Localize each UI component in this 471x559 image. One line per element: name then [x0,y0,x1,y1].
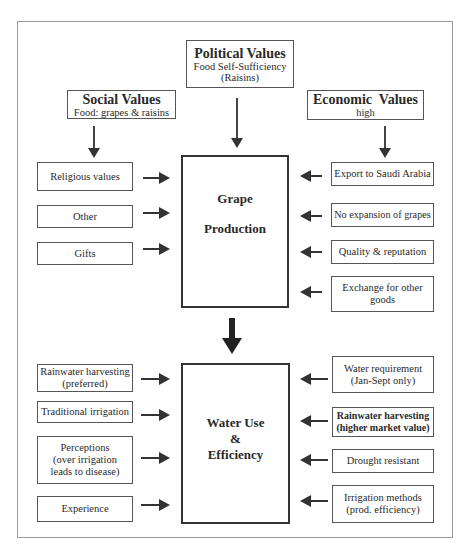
water-requirement-line1: Water requirement [344,363,422,375]
social-values-line1: Food: grapes & raisins [74,107,169,118]
social-values-box: Social Values Food: grapes & raisins [67,90,176,119]
rainwater-harvesting-preferred-box: Rainwater harvesting (preferred) [37,364,133,392]
experience-label: Experience [61,503,108,515]
drought-resistant-box: Drought resistant [332,449,434,473]
other-box: Other [37,205,133,228]
traditional-irrigation-label: Traditional irrigation [41,406,129,418]
no-expansion-box: No expansion of grapes [331,203,434,227]
political-values-line1: Food Self-Sufficiency [194,61,287,72]
water-requirement-arrow-icon [302,378,328,380]
social-values-title: Social Values [82,92,160,107]
gifts-label: Gifts [75,248,96,260]
religious-values-label: Religious values [50,171,120,183]
big-down-arrow-shaft [229,318,235,340]
economic-values-title: Economic Values [313,92,418,107]
economic-values-box: Economic Values high [307,90,424,120]
perceptions-line3: leads to disease) [51,466,120,478]
irrigation-methods-arrow-icon [302,500,328,502]
water-use-line3: Efficiency [208,447,264,463]
traditional-irrigation-arrow-icon [141,414,168,416]
other-arrow-icon [143,212,168,214]
big-down-arrow-head-icon [222,338,242,354]
grape-production-line2: Production [204,221,266,237]
grape-production-box: Grape Production [181,155,289,308]
water-requirement-line2: (Jan-Sept only) [351,375,415,387]
political-values-title: Political Values [194,46,285,61]
perceptions-arrow-icon [141,457,168,459]
drought-resistant-arrow-icon [302,459,328,461]
rainwater-preferred-line1: Rainwater harvesting [40,366,130,378]
perceptions-line2: (over irrigation [53,454,117,466]
political-arrow-head-icon [231,138,243,148]
rainwater-preferred-arrow-icon [141,378,168,380]
political-values-box: Political Values Food Self-Sufficiency (… [186,40,294,88]
perceptions-box: Perceptions (over irrigation leads to di… [37,436,133,484]
irrigation-methods-box: Irrigation methods (prod. efficiency) [332,485,434,523]
experience-box: Experience [37,496,133,522]
political-arrow-shaft [236,98,238,142]
perceptions-line1: Perceptions [61,442,110,454]
economic-values-line1: high [356,107,375,118]
rainwater-harvesting-market-box: Rainwater harvesting (higher market valu… [332,407,434,437]
export-saudi-arabia-label: Export to Saudi Arabia [334,168,431,180]
gifts-arrow-icon [143,248,168,250]
exchange-goods-line1: Exchange for other [342,282,422,294]
exchange-goods-line2: goods [370,294,395,306]
quality-reputation-box: Quality & reputation [331,240,434,264]
rainwater-market-arrow-icon [302,420,328,422]
rainwater-preferred-line2: (preferred) [62,378,107,390]
gifts-box: Gifts [37,242,133,265]
experience-arrow-icon [141,504,168,506]
traditional-irrigation-box: Traditional irrigation [37,401,133,423]
irrigation-methods-line1: Irrigation methods [344,492,422,504]
religious-values-box: Religious values [37,162,133,191]
social-arrow-head-icon [88,148,100,158]
religious-values-arrow-icon [143,177,168,179]
economic-arrow-head-icon [379,148,391,158]
exchange-goods-box: Exchange for other goods [331,276,434,312]
other-label: Other [73,211,97,223]
export-arrow-icon [302,175,322,177]
water-use-efficiency-box: Water Use & Efficiency [181,363,290,524]
rainwater-market-line2: (higher market value) [336,422,429,434]
no-expansion-label: No expansion of grapes [334,209,430,221]
water-use-line2: & [230,431,241,447]
quality-reputation-label: Quality & reputation [339,246,426,258]
water-requirement-box: Water requirement (Jan-Sept only) [332,356,434,393]
drought-resistant-label: Drought resistant [347,455,420,467]
export-saudi-arabia-box: Export to Saudi Arabia [331,162,434,186]
no-expansion-arrow-icon [302,215,322,217]
water-use-line1: Water Use [207,415,265,431]
quality-arrow-icon [302,251,322,253]
rainwater-market-line1: Rainwater harvesting [337,410,429,422]
irrigation-methods-line2: (prod. efficiency) [346,504,419,516]
exchange-arrow-icon [302,291,322,293]
political-values-line2: (Raisins) [221,72,259,83]
grape-production-line1: Grape [217,191,252,207]
